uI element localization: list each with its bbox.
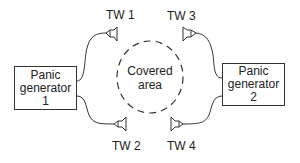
covered-area-line-1: Covered bbox=[127, 64, 172, 78]
panic-generator-1: Panic generator 1 bbox=[14, 66, 77, 110]
wire-gen2-tw3 bbox=[196, 33, 222, 78]
tw2-label: TW 2 bbox=[112, 139, 141, 153]
transducer-tw1-icon bbox=[106, 27, 117, 41]
tw3-label: TW 3 bbox=[167, 9, 196, 23]
generator-1-line-2: generator bbox=[20, 82, 71, 95]
covered-area-line-2: area bbox=[138, 78, 162, 92]
wire-gen1-tw1 bbox=[77, 33, 106, 81]
generator-1-line-3: 1 bbox=[42, 95, 49, 108]
panic-generator-2: Panic generator 2 bbox=[222, 63, 285, 106]
wire-gen1-tw2 bbox=[77, 96, 114, 124]
wire-gen2-tw4 bbox=[183, 96, 222, 124]
transducer-tw2-icon bbox=[114, 117, 126, 131]
generator-2-line-3: 2 bbox=[250, 91, 257, 104]
transducer-tw4-icon bbox=[171, 117, 183, 131]
covered-area-label: Covered area bbox=[117, 43, 183, 113]
tw4-label: TW 4 bbox=[167, 139, 196, 153]
transducer-tw3-icon bbox=[183, 27, 196, 41]
tw1-label: TW 1 bbox=[106, 8, 135, 22]
generator-1-line-1: Panic bbox=[30, 69, 60, 82]
